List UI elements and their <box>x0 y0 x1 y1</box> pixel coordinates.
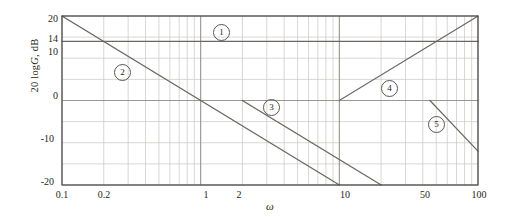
x-tick-2: 2 <box>219 189 259 200</box>
y-tick-10: 10 <box>28 46 58 57</box>
x-tick-100: 100 <box>459 189 499 200</box>
x-tick-10: 10 <box>325 189 365 200</box>
curve-label-2: 2 <box>114 64 131 81</box>
x-tick-0.1: 0.1 <box>42 189 82 200</box>
curve-label-4: 4 <box>381 80 398 97</box>
curve-label-3: 3 <box>263 99 280 116</box>
y-tick-neg20: -20 <box>24 176 54 187</box>
curve-label-1: 1 <box>213 24 230 41</box>
y-axis-label-prefix: 20 log <box>29 65 40 93</box>
y-tick-14: 14 <box>28 33 58 44</box>
plot-canvas <box>0 0 507 217</box>
y-axis-label-italic-g: G <box>29 57 40 65</box>
x-tick-50: 50 <box>405 189 445 200</box>
y-tick-neg10: -10 <box>24 133 54 144</box>
x-axis-label: ω <box>250 200 290 212</box>
y-tick-20: 20 <box>28 13 58 24</box>
bode-plot-figure: 20 logG, dB 20 14 10 0 -10 -20 0.1 0.2 1… <box>0 0 507 217</box>
x-tick-0.2: 0.2 <box>84 189 124 200</box>
y-tick-0: 0 <box>28 90 58 101</box>
curve-label-5: 5 <box>428 116 445 133</box>
